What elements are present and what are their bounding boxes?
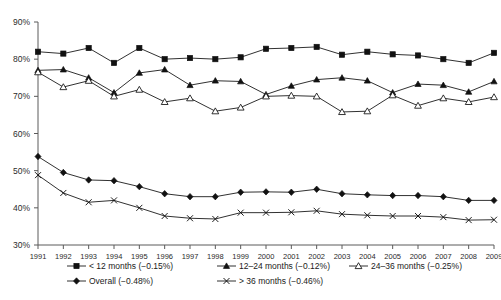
data-point-marker: [35, 153, 41, 159]
data-point-marker: [111, 178, 117, 184]
data-point-marker: [339, 191, 345, 197]
legend-label: 12–24 months (−0.12%): [239, 261, 330, 271]
legend-item-1[interactable]: < 12 months (−0.15%): [67, 261, 173, 271]
data-point-marker: [212, 193, 218, 199]
data-point-marker: [440, 193, 446, 199]
data-point-marker: [491, 197, 497, 203]
x-tick-label: 1993: [80, 252, 97, 261]
y-tick-label: 40%: [13, 203, 30, 213]
legend-item-2[interactable]: 12–24 months (−0.12%): [217, 261, 330, 271]
data-point-marker: [491, 94, 498, 100]
x-tick-label: 1998: [207, 252, 224, 261]
data-point-marker: [60, 169, 66, 175]
y-tick-label: 30%: [13, 240, 30, 250]
data-point-marker: [491, 50, 496, 55]
x-tick-label: 1997: [182, 252, 199, 261]
data-point-marker: [213, 57, 218, 62]
data-point-marker: [136, 183, 142, 189]
data-point-marker: [314, 186, 320, 192]
series-5: [35, 172, 497, 223]
x-tick-label: 1991: [30, 252, 47, 261]
x-tick-label: 2005: [384, 252, 401, 261]
y-tick-label: 60%: [13, 129, 30, 139]
data-point-marker: [441, 57, 446, 62]
data-point-marker: [415, 53, 420, 58]
data-point-marker: [288, 189, 294, 195]
data-point-marker: [162, 66, 168, 72]
x-tick-label: 2009: [486, 252, 501, 261]
x-tick-label: 2008: [460, 252, 477, 261]
data-point-marker: [339, 75, 345, 81]
data-point-marker: [238, 189, 244, 195]
data-point-marker: [365, 49, 370, 54]
data-point-marker: [86, 177, 92, 183]
data-point-marker: [137, 45, 142, 50]
x-tick-label: 2001: [283, 252, 300, 261]
data-point-marker: [136, 86, 143, 92]
series-4: [35, 153, 497, 203]
data-point-marker: [364, 192, 370, 198]
data-point-marker: [415, 192, 421, 198]
data-point-marker: [35, 49, 40, 54]
data-point-marker: [263, 189, 269, 195]
legend-label: Overall (−0.48%): [89, 276, 153, 286]
data-point-marker: [61, 51, 66, 56]
data-point-marker: [390, 192, 396, 198]
data-point-marker: [289, 45, 294, 50]
x-tick-label: 2000: [258, 252, 275, 261]
data-point-marker: [440, 95, 447, 101]
data-point-marker: [339, 52, 344, 57]
legend-marker-filled-diamond-icon: [74, 278, 80, 284]
y-tick-label: 90%: [13, 17, 30, 27]
data-point-marker: [314, 44, 319, 49]
data-point-marker: [86, 45, 91, 50]
legend-item-5[interactable]: > 36 months (−0.46%): [217, 276, 323, 286]
y-tick-label: 80%: [13, 54, 30, 64]
x-tick-label: 2006: [410, 252, 427, 261]
data-point-marker: [162, 191, 168, 197]
data-point-marker: [466, 60, 471, 65]
data-point-marker: [263, 46, 268, 51]
chart-plot-area: 30%40%50%60%70%80%90% 199119921993199419…: [0, 0, 501, 300]
data-point-marker: [162, 57, 167, 62]
x-tick-label: 2004: [359, 252, 376, 261]
line-chart: 30%40%50%60%70%80%90% 199119921993199419…: [0, 0, 501, 300]
data-point-marker: [187, 193, 193, 199]
x-tick-label: 1999: [232, 252, 249, 261]
data-series-layer: [35, 44, 498, 223]
data-point-marker: [187, 95, 194, 101]
chart-legend: < 12 months (−0.15%)12–24 months (−0.12%…: [67, 261, 462, 286]
y-tick-label: 70%: [13, 91, 30, 101]
y-axis-ticks: 30%40%50%60%70%80%90%: [13, 17, 38, 250]
legend-label: > 36 months (−0.46%): [239, 276, 323, 286]
legend-item-3[interactable]: 24–36 months (−0.25%): [349, 261, 462, 271]
legend-marker-filled-square-icon: [74, 263, 79, 268]
x-tick-label: 1995: [131, 252, 148, 261]
x-tick-label: 2003: [334, 252, 351, 261]
x-tick-label: 2007: [435, 252, 452, 261]
data-point-marker: [111, 60, 116, 65]
series-1: [35, 44, 496, 65]
series-line: [38, 175, 494, 220]
data-point-marker: [390, 52, 395, 57]
data-point-marker: [491, 78, 497, 84]
legend-label: < 12 months (−0.15%): [89, 261, 173, 271]
data-point-marker: [238, 55, 243, 60]
y-tick-label: 50%: [13, 166, 30, 176]
x-tick-label: 1994: [106, 252, 123, 261]
data-point-marker: [136, 205, 142, 211]
data-point-marker: [187, 55, 192, 60]
data-point-marker: [466, 197, 472, 203]
data-point-marker: [237, 104, 244, 110]
x-tick-label: 1996: [156, 252, 173, 261]
legend-label: 24–36 months (−0.25%): [371, 261, 462, 271]
x-tick-label: 2002: [308, 252, 325, 261]
x-axis-ticks: 1991199219931994199519961997199819992000…: [30, 245, 501, 261]
x-tick-label: 1992: [55, 252, 72, 261]
legend-item-4[interactable]: Overall (−0.48%): [67, 276, 153, 286]
data-point-marker: [60, 190, 66, 196]
